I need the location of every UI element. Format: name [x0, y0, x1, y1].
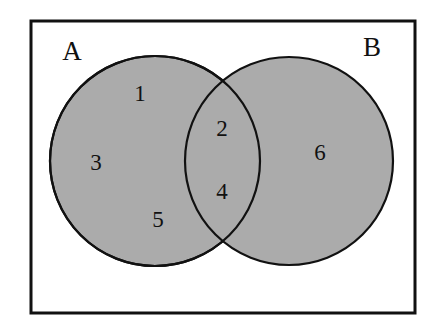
venn-diagram-canvas: A B 1 3 5 2 4 6	[0, 0, 434, 330]
element-6: 6	[314, 140, 326, 165]
set-a-label: A	[62, 36, 82, 66]
element-1: 1	[134, 81, 146, 106]
element-5: 5	[152, 207, 164, 232]
element-4: 4	[216, 179, 228, 204]
set-b-label: B	[363, 32, 381, 62]
set-b-circle	[185, 57, 393, 265]
element-3: 3	[90, 150, 102, 175]
venn-diagram-figure: A B 1 3 5 2 4 6	[0, 0, 434, 330]
element-2: 2	[216, 116, 228, 141]
